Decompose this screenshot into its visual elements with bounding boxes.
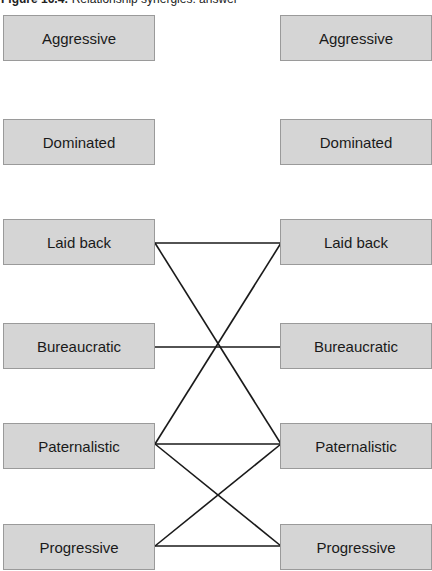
left-box-paternalistic: Paternalistic xyxy=(3,423,155,469)
right-box-bureaucratic: Bureaucratic xyxy=(280,323,432,369)
left-box-laid-back: Laid back xyxy=(3,219,155,265)
box-label: Dominated xyxy=(43,134,116,151)
left-box-bureaucratic: Bureaucratic xyxy=(3,323,155,369)
left-box-aggressive: Aggressive xyxy=(3,15,155,61)
box-label: Paternalistic xyxy=(38,438,120,455)
figure-number: Figure 16.4: xyxy=(1,0,68,6)
right-box-dominated: Dominated xyxy=(280,119,432,165)
box-label: Bureaucratic xyxy=(314,338,398,355)
box-label: Progressive xyxy=(316,539,395,556)
box-label: Laid back xyxy=(324,234,388,251)
link-paternalistic-progressive xyxy=(155,444,281,546)
box-label: Aggressive xyxy=(319,30,393,47)
figure-title: Relationship synergies: answer xyxy=(72,0,238,6)
right-box-aggressive: Aggressive xyxy=(280,15,432,61)
box-label: Bureaucratic xyxy=(37,338,121,355)
left-box-progressive: Progressive xyxy=(3,524,155,570)
left-box-dominated: Dominated xyxy=(3,119,155,165)
box-label: Laid back xyxy=(47,234,111,251)
right-box-laid-back: Laid back xyxy=(280,219,432,265)
right-box-progressive: Progressive xyxy=(280,524,432,570)
link-paternalistic-laidback xyxy=(155,243,281,444)
connection-lines xyxy=(0,0,432,571)
box-label: Aggressive xyxy=(42,30,116,47)
box-label: Paternalistic xyxy=(315,438,397,455)
right-box-paternalistic: Paternalistic xyxy=(280,423,432,469)
box-label: Dominated xyxy=(320,134,393,151)
link-progressive-paternalistic xyxy=(155,444,281,546)
link-laidback-paternalistic xyxy=(155,243,281,444)
figure-caption: Figure 16.4: Relationship synergies: ans… xyxy=(1,0,238,6)
box-label: Progressive xyxy=(39,539,118,556)
